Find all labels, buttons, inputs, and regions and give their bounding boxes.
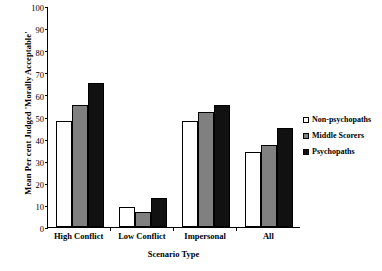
y-axis-tick: 20 [36, 175, 49, 193]
bar [261, 145, 277, 227]
y-axis-tick: 50 [36, 109, 49, 127]
bar [56, 121, 72, 227]
y-axis-tick-label: 40 [36, 136, 49, 146]
bar [182, 121, 198, 227]
legend-item: Non-psychopaths [303, 115, 371, 124]
bar-group [237, 7, 300, 227]
x-axis-tick-label: Low Conflict [110, 231, 173, 241]
bar [119, 207, 135, 227]
y-axis-tick: 60 [36, 86, 49, 104]
y-axis-tick-label: 30 [36, 158, 49, 168]
legend: Non-psychopathsMiddle ScorersPsychopaths [303, 115, 371, 163]
x-axis-title: Scenario Type [47, 249, 300, 259]
x-axis-tick-label: Impersonal [174, 231, 237, 241]
y-axis-title: Mean Per cent Judged 'Morally Acceptable… [23, 23, 33, 203]
y-axis-tick: 70 [36, 64, 49, 82]
legend-swatch-icon [303, 149, 309, 155]
legend-swatch-icon [303, 133, 309, 139]
bar [198, 112, 214, 227]
bar-chart: Mean Per cent Judged 'Morally Acceptable… [0, 0, 382, 271]
legend-label: Middle Scorers [312, 131, 364, 140]
y-axis-tick: 40 [36, 131, 49, 149]
y-axis-tick-label: 80 [36, 48, 49, 58]
bar-group [174, 7, 237, 227]
y-axis-tick: 90 [36, 20, 49, 38]
x-axis-tick-label: High Conflict [47, 231, 110, 241]
legend-swatch-icon [303, 117, 309, 123]
y-axis-tick-label: 70 [36, 70, 49, 80]
bar [245, 152, 261, 227]
bar-group [111, 7, 174, 227]
bar [151, 198, 167, 227]
y-axis-tick: 80 [36, 42, 49, 60]
bar-group [48, 7, 111, 227]
y-axis-tick: 30 [36, 153, 49, 171]
bar-groups [48, 7, 300, 227]
y-axis-tick: 10 [36, 197, 49, 215]
y-axis-tick-label: 50 [36, 114, 49, 124]
y-axis-tick-label: 10 [36, 202, 49, 212]
bar [135, 212, 151, 227]
y-axis-tick-label: 20 [36, 180, 49, 190]
y-axis-tick-label: 100 [31, 3, 48, 13]
legend-item: Middle Scorers [303, 131, 371, 140]
bar [277, 128, 293, 227]
plot-area: 1009080706050403020100 [47, 7, 300, 228]
x-axis-tick-labels: High ConflictLow ConflictImpersonalAll [47, 231, 300, 241]
legend-item: Psychopaths [303, 147, 371, 156]
bar [72, 105, 88, 227]
y-axis-tick: 100 [31, 0, 48, 16]
y-axis-tick-label: 60 [36, 92, 49, 102]
legend-label: Psychopaths [312, 147, 355, 156]
y-axis-tick-mark [45, 228, 48, 229]
bar [88, 83, 104, 227]
legend-label: Non-psychopaths [312, 115, 371, 124]
y-axis-tick-label: 90 [36, 25, 49, 35]
x-axis-tick-label: All [237, 231, 300, 241]
bar [214, 105, 230, 227]
